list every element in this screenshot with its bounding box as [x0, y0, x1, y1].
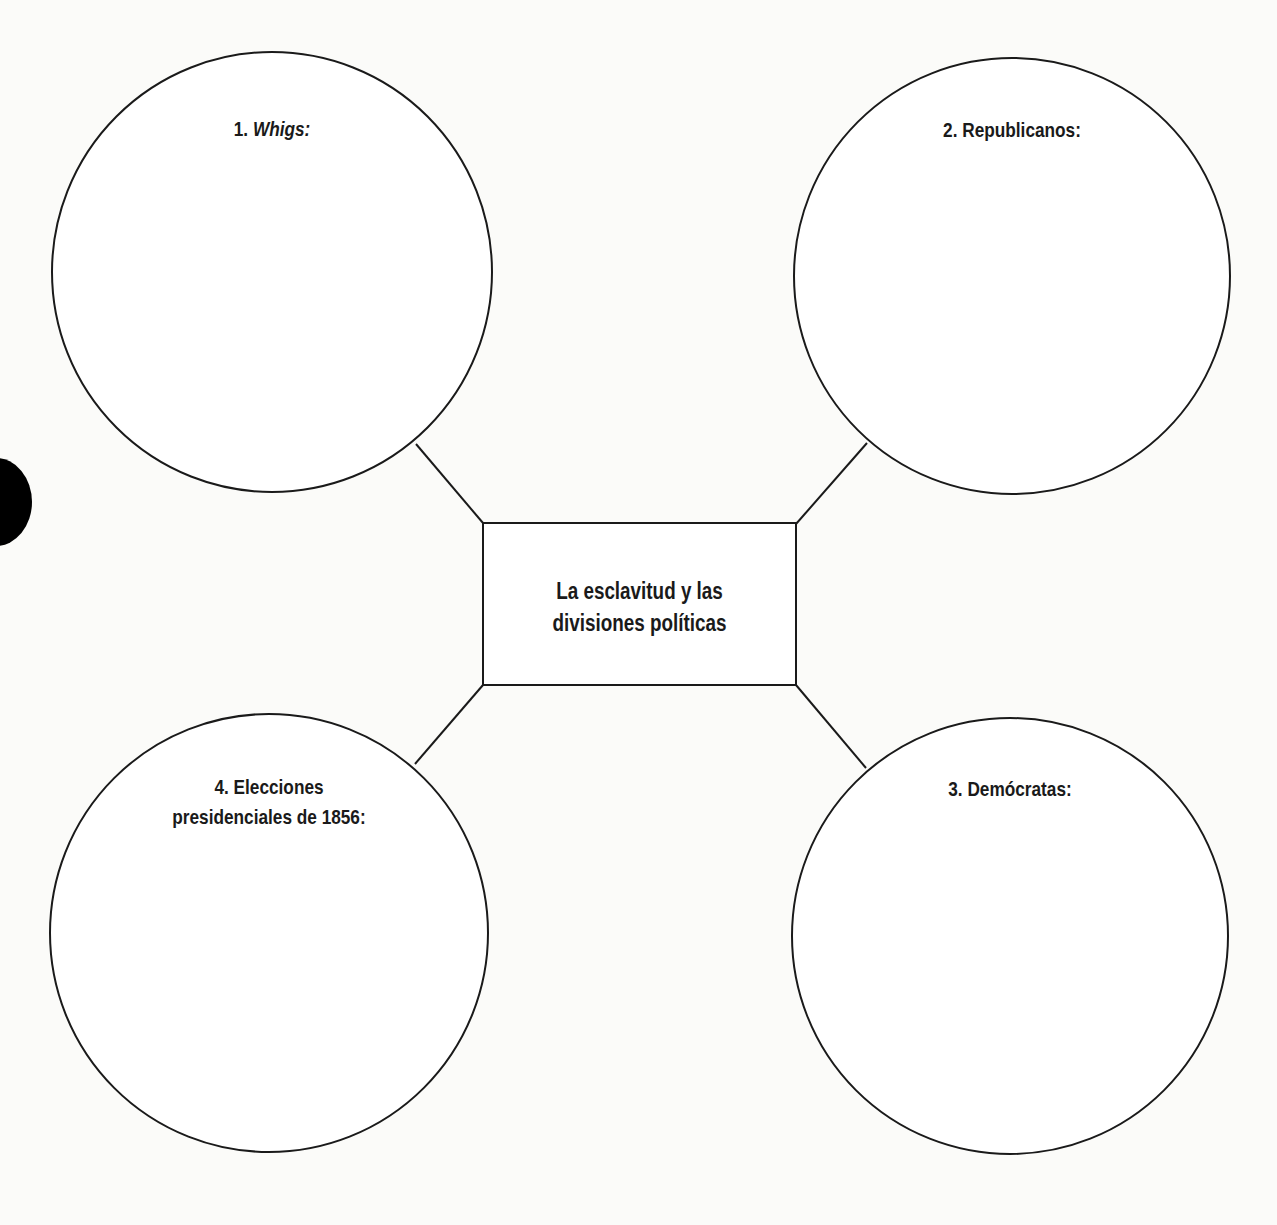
node-title-line2: presidenciales de 1856:: [146, 802, 392, 832]
node-label-democratas: 3. Demócratas:: [928, 774, 1092, 804]
center-topic-line2: divisiones políticas: [511, 607, 768, 639]
node-label-whigs: 1. Whigs:: [190, 114, 354, 144]
node-number: 1.: [234, 117, 248, 140]
node-number: 4.: [214, 775, 228, 798]
node-label-republicanos: 2. Republicanos:: [930, 115, 1094, 145]
node-label-elecciones: 4. Elecciones presidenciales de 1856:: [146, 772, 392, 832]
center-topic-line1: La esclavitud y las: [511, 575, 768, 607]
node-title: Demócratas:: [967, 777, 1071, 800]
node-title: Whigs:: [253, 117, 310, 140]
node-number: 2.: [943, 118, 957, 141]
center-topic: La esclavitud y las divisiones políticas: [511, 575, 768, 639]
connector-democratas: [796, 685, 866, 768]
connector-republicanos: [796, 443, 867, 524]
connector-elecciones: [415, 685, 483, 764]
node-title: Republicanos:: [962, 118, 1081, 141]
connector-whigs: [416, 444, 483, 523]
node-number: 3.: [948, 777, 962, 800]
node-title: Elecciones: [234, 775, 324, 798]
